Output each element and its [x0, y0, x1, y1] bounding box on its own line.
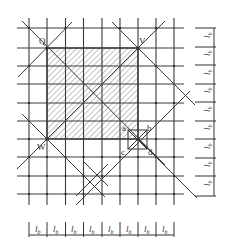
svg-text:lb: lb: [35, 224, 41, 235]
label-w: W: [37, 142, 46, 152]
label-a: a: [122, 123, 126, 133]
svg-text:lb: lb: [202, 143, 213, 149]
svg-text:lb: lb: [108, 224, 114, 235]
grid-diagram: Q V W a b c d lb lb lb lb lb lb lb lb lb: [0, 0, 229, 250]
right-dimension: lb lb lb lb lb lb lb lb lb: [195, 28, 216, 196]
svg-text:lb: lb: [202, 124, 213, 130]
svg-text:lb: lb: [202, 106, 213, 112]
svg-text:lb: lb: [71, 224, 77, 235]
bottom-dimension: lb lb lb lb lb lb lb lb: [29, 222, 174, 237]
label-b: b: [147, 123, 152, 133]
label-d: d: [148, 147, 153, 157]
svg-text:lb: lb: [202, 161, 213, 167]
svg-text:lb: lb: [89, 224, 95, 235]
label-c: c: [121, 147, 125, 157]
svg-text:lb: lb: [202, 87, 213, 93]
svg-text:lb: lb: [162, 224, 168, 235]
label-q: Q: [39, 36, 46, 46]
label-v: V: [139, 36, 146, 46]
svg-text:lb: lb: [144, 224, 150, 235]
svg-text:lb: lb: [202, 180, 213, 186]
svg-text:lb: lb: [202, 50, 213, 56]
svg-text:lb: lb: [53, 224, 59, 235]
svg-text:lb: lb: [202, 32, 213, 38]
svg-text:lb: lb: [202, 69, 213, 75]
svg-text:lb: lb: [126, 224, 132, 235]
